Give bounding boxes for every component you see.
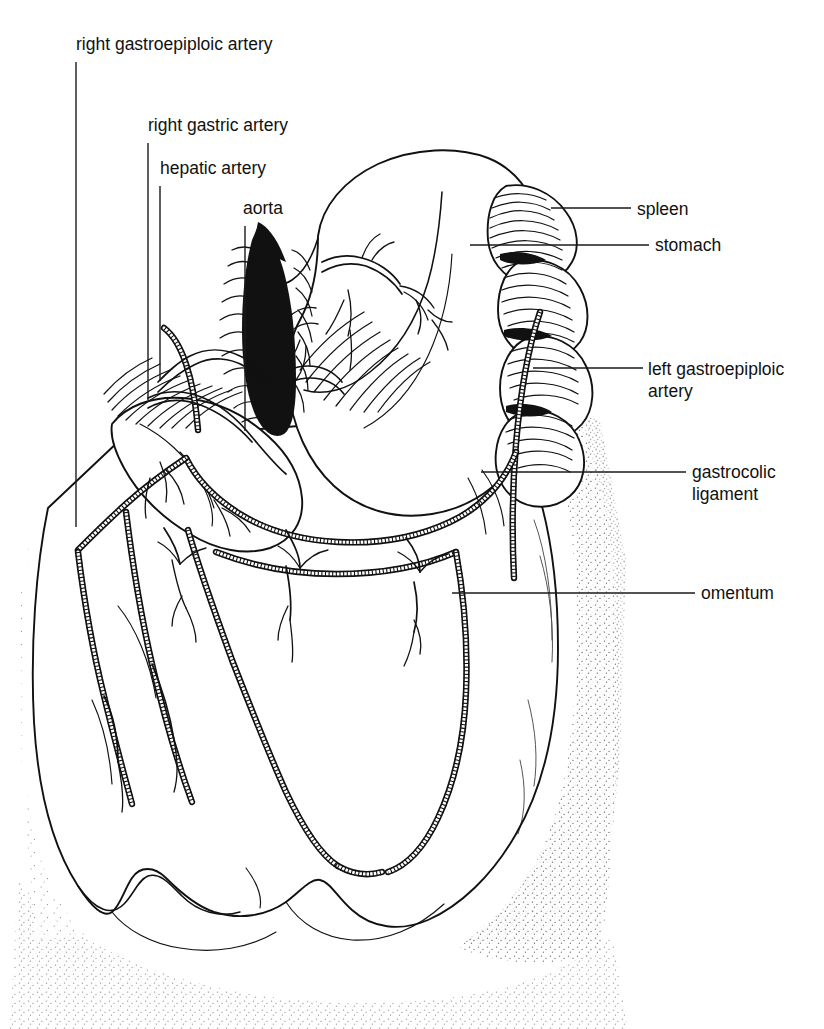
anatomy-illustration: right gastroepiploic artery right gastri… (0, 0, 824, 1029)
anatomical-figure: right gastroepiploic artery right gastri… (0, 0, 824, 1029)
label-aorta: aorta (243, 198, 283, 218)
label-spleen: spleen (637, 199, 689, 219)
label-gastrocolic-ligament: gastrocolic ligament (692, 462, 781, 504)
aorta-lumen (242, 226, 296, 436)
label-omentum: omentum (701, 583, 774, 603)
label-right-gastric-artery: right gastric artery (148, 115, 288, 135)
label-left-gastroepiploic-artery-line2: artery (648, 381, 693, 401)
label-stomach: stomach (655, 235, 721, 255)
label-right-gastroepiploic-artery: right gastroepiploic artery (76, 34, 273, 54)
label-gastrocolic-ligament-line1: gastrocolic (692, 462, 776, 482)
label-hepatic-artery: hepatic artery (160, 158, 266, 178)
label-left-gastroepiploic-artery: left gastroepiploic artery (648, 359, 789, 401)
label-gastrocolic-ligament-line2: ligament (692, 484, 758, 504)
label-left-gastroepiploic-artery-line1: left gastroepiploic (648, 359, 784, 379)
